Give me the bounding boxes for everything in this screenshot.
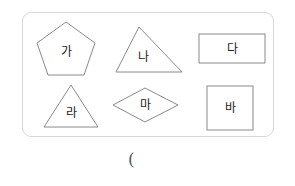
shape-label-square-ba: 바 <box>225 102 236 114</box>
shape-label-pentagon: 가 <box>61 46 72 58</box>
shape-label-triangle-ra: 라 <box>66 107 77 119</box>
answer-blank-parenthesis: ( <box>128 151 135 168</box>
shape-canvas <box>0 0 295 186</box>
shape-label-rhombus-ma: 마 <box>140 99 151 111</box>
worksheet-figure: 가 나 다 라 마 바 ( <box>0 0 295 186</box>
shape-label-rectangle-da: 다 <box>227 43 238 55</box>
shape-label-triangle-na: 나 <box>138 51 149 63</box>
shape-triangle-na-outline <box>116 27 182 72</box>
